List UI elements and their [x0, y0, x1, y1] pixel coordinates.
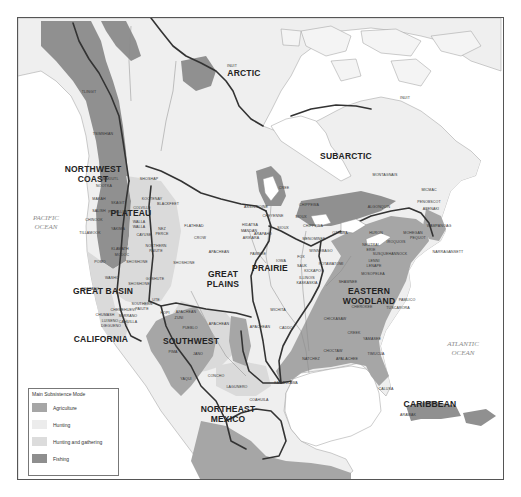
tribe-label: POTAWATOMI	[319, 262, 344, 266]
hunting-gathering-swatch	[32, 437, 47, 446]
tribe-label: CHIPPEWA	[299, 203, 319, 207]
tribe-label: KWAKIUTL	[99, 177, 118, 181]
tribe-label: CREEK	[348, 331, 361, 335]
tribe-label: KOOTENAY	[142, 197, 163, 201]
tribe-label: IOWA	[276, 259, 286, 263]
tribe-label: MICMAC	[421, 188, 436, 192]
tribe-label: IROQUOIS	[387, 240, 406, 244]
tribe-label: APACHEAN	[176, 310, 197, 314]
tribe-label: PUYALLUP	[108, 210, 128, 214]
tribe-label: COAHUILA	[249, 398, 269, 402]
tribe-label: SUSQUEHANNOCK	[373, 252, 408, 256]
tribe-label: SHOSHONE	[128, 282, 150, 286]
tribe-label: CHEYENNE	[263, 214, 284, 218]
tribe-label: CAHUILLA	[119, 320, 138, 324]
tribe-label: UTE	[152, 298, 160, 302]
tribe-label: ARAPAHO	[254, 232, 272, 236]
tribe-label: CHICKASAW	[324, 317, 347, 321]
tribe-label: POMO	[94, 260, 105, 264]
pacific-ocean-label: PACIFICOCEAN	[32, 214, 59, 231]
tribe-label: TLINGIT	[82, 90, 97, 94]
tribe-label: CALUSA	[379, 387, 394, 391]
tribe-label: HIDATSA	[242, 223, 259, 227]
hunting-swatch	[32, 420, 47, 429]
agriculture-swatch	[32, 403, 47, 412]
tribe-label: CHINOOK	[85, 218, 103, 222]
tribe-label: YAQUI	[180, 377, 191, 381]
culture-area-label: GREATPLAINS	[207, 269, 239, 289]
tribe-label: YAKIMA	[111, 227, 125, 231]
tribe-label: MOHEGAN	[403, 231, 423, 235]
tribe-label: ASSINIBOINE	[244, 205, 269, 209]
tribe-label: HOPI	[160, 311, 169, 315]
tribe-label: INUIT	[400, 96, 411, 100]
tribe-label: WAMPANOAG	[427, 224, 452, 228]
tribe-label: SIOUX	[295, 215, 307, 219]
tribe-label: DIEGUENO	[101, 324, 121, 328]
tribe-label: SHOSHONE	[126, 260, 148, 264]
tribe-label: WICHITA	[270, 308, 286, 312]
arctic-islands	[281, 26, 481, 86]
culture-area-label: PRAIRIE	[252, 263, 288, 273]
tribe-label: MONTAGNAIS	[373, 173, 398, 177]
tribe-label: CONCHO	[208, 374, 225, 378]
tribe-label: SHOSHONE	[173, 261, 195, 265]
tribe-label: PUEBLO	[182, 326, 197, 330]
tribe-label: CHIPPEWA	[303, 224, 323, 228]
tribe-label: FOX	[297, 255, 305, 259]
tribe-label: INUIT	[227, 64, 238, 68]
legend-item-agriculture: Agriculture	[32, 399, 115, 416]
tribe-label: PENOBSCOT	[417, 200, 441, 204]
tribe-label: SHAWNEE	[339, 280, 358, 284]
tribe-label: MOSOPELEA	[361, 272, 385, 276]
culture-area-label: SUBARCTIC	[320, 151, 372, 161]
legend-label: Agriculture	[53, 405, 77, 411]
tribe-label: ARAWAK	[400, 413, 416, 417]
legend: Main Subsistence Mode Agriculture Huntin…	[28, 388, 119, 476]
tribe-label: WALLAWALLA	[133, 220, 146, 229]
tribe-label: ARIKARA	[243, 236, 260, 240]
legend-item-fishing: Fishing	[32, 450, 115, 467]
tribe-label: PEQUOT	[410, 236, 426, 240]
tribe-label: OTTAWA	[332, 231, 348, 235]
tribe-label: PAMLICO	[399, 298, 416, 302]
tribe-label: SHOSHAP	[140, 177, 159, 181]
fishing-swatch	[32, 454, 47, 463]
tribe-label: ZUNI	[175, 316, 184, 320]
legend-item-hunting: Hunting	[32, 416, 115, 433]
tribe-label: LAGUNERO	[227, 385, 248, 389]
culture-area-label: EASTERNWOODLAND	[343, 286, 396, 306]
atlantic-ocean-label: ATLANTICOCEAN	[446, 340, 479, 357]
tribe-label: CHEMEHUEVI	[111, 308, 136, 312]
tribe-label: CHUMASH	[96, 313, 115, 317]
tribe-label: COSTANO	[81, 287, 99, 291]
tribe-label: APACHEAN	[209, 322, 230, 326]
tribe-label: BLACKFEET	[157, 202, 180, 206]
tribe-label: NATCHEZ	[302, 357, 320, 361]
tribe-label: LUISENO	[102, 319, 119, 323]
culture-area-label: ARCTIC	[227, 68, 260, 78]
tribe-label: NARRAGANSETT	[433, 250, 464, 254]
tribe-label: JANO	[193, 352, 203, 356]
legend-item-hunting-gathering: Hunting and gathering	[32, 433, 115, 450]
legend-title: Main Subsistence Mode	[32, 391, 115, 397]
tribe-label: WINNEBAGO	[309, 249, 332, 253]
tribe-label: CHEROKEE	[352, 305, 373, 309]
tribe-label: CAYUSE	[136, 233, 152, 237]
tribe-label: CADDO	[279, 326, 293, 330]
tribe-label: YAMASEE	[363, 337, 381, 341]
culture-area-label: CALIFORNIA	[74, 334, 128, 344]
tribe-label: TSIMSHIAN	[93, 132, 114, 136]
tribe-label: KLAMATH	[111, 247, 129, 251]
legend-label: Hunting	[53, 422, 70, 428]
tribe-label: ABENAKI	[423, 207, 439, 211]
tribe-label: COLVILLE	[133, 206, 151, 210]
tribe-label: SIOUX	[277, 226, 289, 230]
tribe-label: CHOCTAW	[324, 349, 343, 353]
tribe-label: KICKAPOO	[304, 269, 324, 273]
tribe-label: ALGONQUIN	[368, 205, 391, 209]
tribe-label: SKAGIT	[111, 201, 125, 205]
culture-area-label: CARIBBEAN	[404, 399, 457, 409]
tribe-label: MENOMINEE	[302, 237, 326, 241]
tribe-label: TILLAMOOK	[79, 231, 101, 235]
